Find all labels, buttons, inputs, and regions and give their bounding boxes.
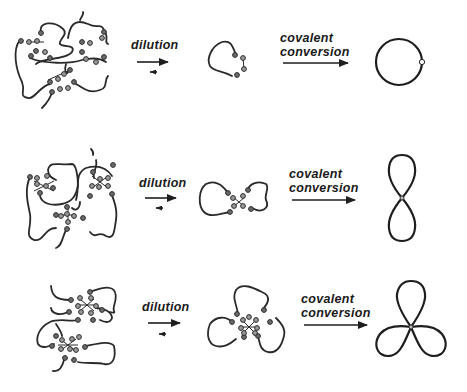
figure-canvas <box>0 0 467 392</box>
row3-dilution-arrows <box>148 323 180 334</box>
row1-conversion-label-line2: conversion <box>280 45 350 59</box>
row1-conversion-label-line1: covalent <box>280 31 333 45</box>
row2-intermediate <box>200 182 268 215</box>
row2-aggregate <box>27 149 117 248</box>
row3-intermediate <box>208 286 284 352</box>
row3-conversion-label-line1: covalent <box>301 292 354 306</box>
row1-product-ring <box>376 39 425 85</box>
row1-dilution-arrows <box>137 62 168 72</box>
row2-conversion-label-line2: conversion <box>289 181 359 195</box>
row3-conversion-label-line2: conversion <box>301 306 371 320</box>
row3-aggregate <box>37 286 115 371</box>
row3-dilution-label: dilution <box>142 300 190 314</box>
row1-aggregate <box>16 12 108 108</box>
row2-conversion-label-line1: covalent <box>289 167 342 181</box>
row2-dilution-arrows <box>145 198 176 208</box>
row1-dilution-label: dilution <box>131 38 179 52</box>
row1-intermediate <box>209 42 247 78</box>
row2-dilution-label: dilution <box>139 176 187 190</box>
row3-product-trefoil <box>376 281 445 356</box>
row2-product-figure-eight <box>389 155 415 241</box>
